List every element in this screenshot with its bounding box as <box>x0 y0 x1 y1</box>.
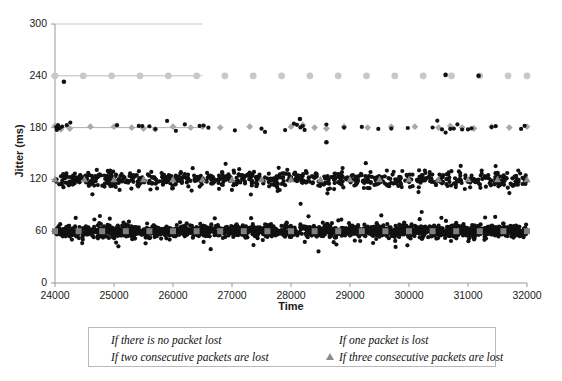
x-tick-label: 24000 <box>25 289 85 301</box>
x-tick-label: 27000 <box>202 289 262 301</box>
scatter-points <box>54 161 529 253</box>
y-tick-label: 240 <box>7 69 47 81</box>
series-markers <box>52 228 530 234</box>
x-tick-label: 31000 <box>438 289 498 301</box>
x-tick-label: 30000 <box>379 289 439 301</box>
diamond-marker-icon <box>97 353 106 362</box>
scatter-points-180 <box>54 73 527 145</box>
x-axis-title: Time <box>55 300 527 312</box>
y-tick-label: 180 <box>7 121 47 133</box>
legend-item-no-packet-lost[interactable]: If there is no packet lost <box>97 331 325 349</box>
x-tick-label: 32000 <box>497 289 557 301</box>
chart-legend: If there is no packet lost If one packet… <box>88 327 496 367</box>
x-tick-label: 25000 <box>84 289 144 301</box>
legend-label-no-packet-lost: If there is no packet lost <box>111 334 221 346</box>
x-tick-label: 29000 <box>320 289 380 301</box>
triangle-marker-icon <box>325 336 334 345</box>
legend-item-two-packets-lost[interactable]: If two consecutive packets are lost <box>97 348 325 366</box>
y-tick-label: 60 <box>7 224 47 236</box>
y-tick-label: 300 <box>7 17 47 29</box>
jitter-scatter-chart: Jitter (ms) Time 300240180120600 2400025… <box>0 0 562 381</box>
legend-item-one-packet-lost[interactable]: If one packet is lost <box>325 331 428 349</box>
legend-label-three-packets-lost: If three consecutive packets are lost <box>339 351 503 363</box>
y-tick-label: 120 <box>7 172 47 184</box>
circle-marker-icon <box>325 353 334 362</box>
plot-canvas <box>0 0 562 381</box>
legend-label-two-packets-lost: If two consecutive packets are lost <box>111 351 269 363</box>
gridlines <box>51 24 527 287</box>
x-tick-label: 28000 <box>261 289 321 301</box>
legend-label-one-packet-lost: If one packet is lost <box>339 334 428 346</box>
legend-row-bottom: If two consecutive packets are lost If t… <box>97 348 503 366</box>
x-tick-label: 26000 <box>143 289 203 301</box>
legend-item-three-packets-lost[interactable]: If three consecutive packets are lost <box>325 348 503 366</box>
square-marker-icon <box>97 336 106 345</box>
legend-row-top: If there is no packet lost If one packet… <box>97 331 428 349</box>
y-tick-label: 0 <box>7 276 47 288</box>
series-connector-lines <box>55 76 203 128</box>
